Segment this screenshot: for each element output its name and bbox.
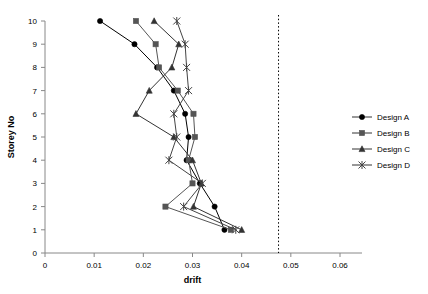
y-axis-title: Storey No [6,115,16,158]
legend-label-design-c: Design C [377,145,410,154]
series-design-c-triangle-marker [239,227,245,233]
series-design-b-square-marker [192,134,197,139]
series-design-a-circle-marker [212,204,217,209]
series-design-b-square-marker [191,111,196,116]
y-tick-label: 4 [33,156,38,165]
series-design-b-square-marker [133,18,138,23]
series-design-d-star-marker [170,110,177,118]
series-design-d-star-marker [180,203,187,211]
y-tick-label: 5 [33,133,38,142]
series-design-d-star-marker [165,156,172,164]
series-design-b-square-marker [153,42,158,47]
series-design-c-triangle-marker [169,64,175,70]
x-tick-label: 0.03 [185,261,201,270]
x-tick-label: 0.01 [86,261,102,270]
y-tick-label: 8 [33,63,38,72]
series-line-design-d [169,21,236,230]
series-design-b-square-marker [190,181,195,186]
series-design-a-circle-marker [132,42,137,47]
series-design-b-square-marker [156,65,161,70]
series-design-b-square-marker [163,204,168,209]
y-tick-label: 10 [28,17,37,26]
legend-1-square-marker [359,130,364,135]
y-tick-label: 7 [33,87,38,96]
series-design-c-triangle-marker [190,203,196,209]
series-design-c-triangle-marker [151,18,157,24]
series-line-design-a [100,21,224,230]
series-design-a-circle-marker [186,134,191,139]
y-tick-label: 1 [33,226,38,235]
legend-label-design-b: Design B [377,129,409,138]
series-design-a-circle-marker [97,18,102,23]
y-tick-label: 6 [33,110,38,119]
x-tick-label: 0 [43,261,48,270]
legend-label-design-a: Design A [377,113,410,122]
x-tick-label: 0.05 [283,261,299,270]
x-tick-label: 0.02 [136,261,152,270]
y-tick-label: 9 [33,40,38,49]
y-tick-label: 2 [33,203,38,212]
series-design-b-square-marker [175,88,180,93]
chart-container: 00.010.020.030.040.050.06012345678910dri… [0,0,428,294]
legend-label-design-d: Design D [377,161,410,170]
series-line-design-b [136,21,231,230]
series-line-design-c [136,21,242,230]
series-design-a-circle-marker [183,111,188,116]
x-axis-title: drift [184,275,202,285]
x-tick-label: 0.04 [234,261,250,270]
y-tick-label: 0 [33,249,38,258]
y-tick-label: 3 [33,179,38,188]
legend-0-circle-marker [359,114,364,119]
x-tick-label: 0.06 [332,261,348,270]
series-design-d-star-marker [185,87,192,95]
series-design-d-star-marker [183,63,190,71]
series-design-c-triangle-marker [133,111,139,117]
series-design-d-star-marker [182,40,189,48]
drift-vs-storey-chart: 00.010.020.030.040.050.06012345678910dri… [0,0,428,294]
series-design-d-star-marker [173,17,180,25]
